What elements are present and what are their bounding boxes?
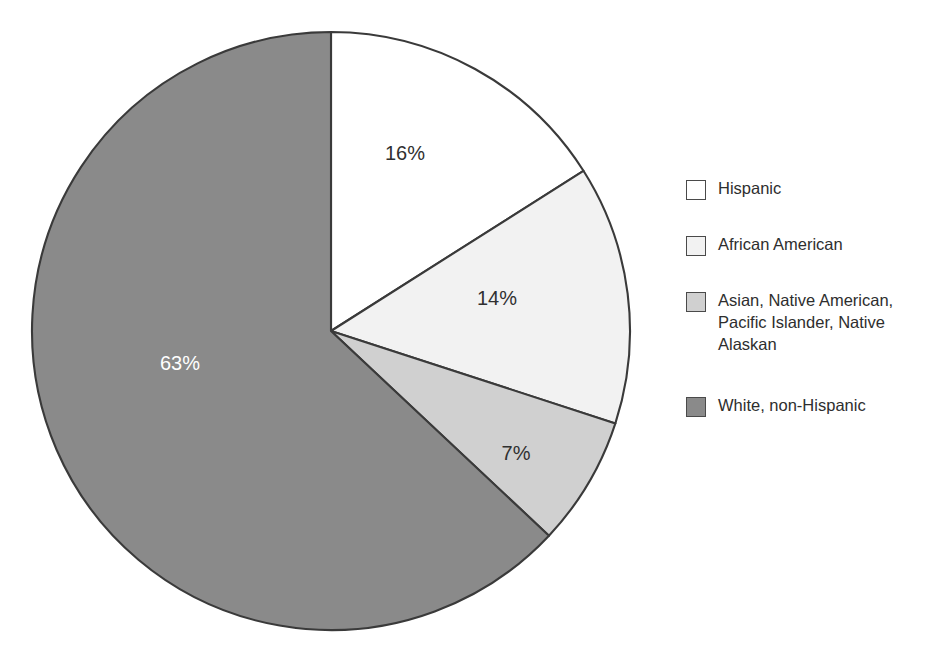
chart-legend: HispanicAfrican AmericanAsian, Native Am…	[686, 178, 936, 451]
legend-item[interactable]: Hispanic	[686, 178, 936, 200]
legend-swatch-icon	[686, 180, 706, 200]
legend-item[interactable]: Asian, Native American, Pacific Islander…	[686, 290, 936, 355]
pie-slice-value-label: 7%	[502, 442, 531, 464]
legend-item-label: African American	[718, 234, 843, 256]
legend-item-label: Hispanic	[718, 178, 781, 200]
pie-slice-value-label: 14%	[477, 287, 517, 309]
legend-item-label: White, non-Hispanic	[718, 395, 866, 417]
legend-item[interactable]: African American	[686, 234, 936, 256]
legend-item[interactable]: White, non-Hispanic	[686, 395, 936, 417]
legend-swatch-icon	[686, 292, 706, 312]
legend-swatch-icon	[686, 236, 706, 256]
pie-slice-value-label: 16%	[385, 142, 425, 164]
legend-swatch-icon	[686, 397, 706, 417]
legend-item-label: Asian, Native American, Pacific Islander…	[718, 290, 893, 355]
pie-slice-value-label: 63%	[160, 352, 200, 374]
pie-slice-group	[32, 32, 630, 630]
